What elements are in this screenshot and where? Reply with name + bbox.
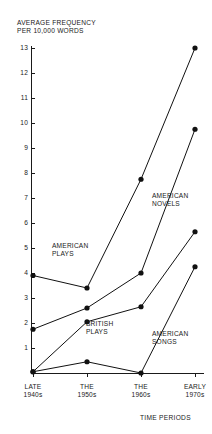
- series-line-american-songs: [33, 267, 195, 373]
- y-axis-title: AVERAGE FREQUENCY PER 10,000 WORDS: [17, 19, 96, 35]
- y-tick-label-8: 8: [2, 170, 28, 177]
- y-tick-label-11: 11: [2, 95, 28, 102]
- data-point-american-novels-2: [138, 270, 143, 275]
- y-tick-label-10: 10: [2, 120, 28, 127]
- x-tick-3: [195, 373, 196, 377]
- y-tick-4: [31, 273, 35, 274]
- series-line-american-novels: [33, 129, 195, 329]
- y-tick-label-4: 4: [2, 270, 28, 277]
- x-axis-label-1: THE 1950s: [59, 383, 115, 399]
- y-tick-label-3: 3: [2, 295, 28, 302]
- y-tick-8: [31, 173, 35, 174]
- data-point-american-plays-3: [192, 45, 197, 50]
- y-tick-7: [31, 198, 35, 199]
- y-tick-label-wrap: 4: [0, 270, 28, 277]
- data-point-american-plays-1: [84, 285, 89, 290]
- y-tick-label-wrap: 1: [0, 345, 28, 352]
- data-point-american-songs-1: [84, 359, 89, 364]
- x-tick-2: [141, 373, 142, 377]
- series-label-british-plays: BRITISH PLAYS: [86, 320, 113, 336]
- y-tick-label-wrap: 3: [0, 295, 28, 302]
- data-point-american-plays-2: [138, 177, 143, 182]
- y-tick-label-1: 1: [2, 345, 28, 352]
- x-tick-1: [87, 373, 88, 377]
- y-tick-label-9: 9: [2, 145, 28, 152]
- y-tick-label-wrap: 6: [0, 220, 28, 227]
- series-label-american-songs: AMERICAN SONGS: [152, 330, 188, 346]
- line-chart: AVERAGE FREQUENCY PER 10,000 WORDS 12345…: [0, 0, 212, 434]
- y-tick-label-wrap: 9: [0, 145, 28, 152]
- y-tick-label-wrap: 5: [0, 245, 28, 252]
- y-tick-10: [31, 123, 35, 124]
- y-tick-5: [31, 248, 35, 249]
- y-axis-line: [31, 46, 32, 374]
- y-tick-2: [31, 323, 35, 324]
- series-label-american-plays: AMERICAN PLAYS: [52, 242, 88, 258]
- y-tick-9: [31, 148, 35, 149]
- x-axis-label-2: THE 1960s: [113, 383, 169, 399]
- y-tick-label-wrap: 13: [0, 45, 28, 52]
- y-tick-11: [31, 98, 35, 99]
- y-tick-6: [31, 223, 35, 224]
- x-tick-0: [33, 373, 34, 377]
- y-tick-label-wrap: 7: [0, 195, 28, 202]
- series-label-american-novels: AMERICAN NOVELS: [152, 192, 188, 208]
- y-tick-label-13: 13: [2, 45, 28, 52]
- y-tick-label-5: 5: [2, 245, 28, 252]
- x-axis-label-0: LATE 1940s: [5, 383, 61, 399]
- data-point-american-novels-3: [192, 127, 197, 132]
- y-tick-label-6: 6: [2, 220, 28, 227]
- y-tick-label-7: 7: [2, 195, 28, 202]
- y-tick-label-wrap: 10: [0, 120, 28, 127]
- data-point-british-plays-2: [138, 304, 143, 309]
- x-axis-label-3: EARLY 1970s: [167, 383, 212, 399]
- x-axis-line: [31, 373, 204, 374]
- y-tick-label-wrap: 12: [0, 70, 28, 77]
- data-point-american-songs-3: [192, 264, 197, 269]
- y-tick-label-wrap: 2: [0, 320, 28, 327]
- data-point-american-novels-1: [84, 305, 89, 310]
- x-axis-title: TIME PERIODS: [140, 414, 191, 421]
- y-tick-3: [31, 298, 35, 299]
- y-tick-12: [31, 73, 35, 74]
- y-tick-13: [31, 48, 35, 49]
- y-tick-label-2: 2: [2, 320, 28, 327]
- y-tick-1: [31, 348, 35, 349]
- y-tick-label-wrap: 11: [0, 95, 28, 102]
- y-tick-label-12: 12: [2, 70, 28, 77]
- data-point-british-plays-3: [192, 229, 197, 234]
- y-tick-label-wrap: 8: [0, 170, 28, 177]
